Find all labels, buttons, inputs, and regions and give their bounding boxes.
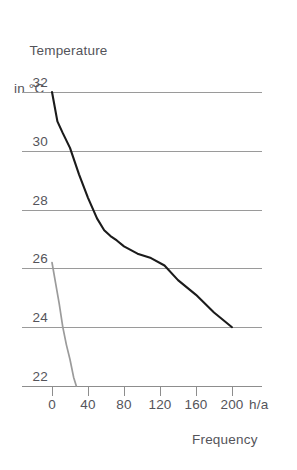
y-tick-label-28: 28: [22, 193, 48, 208]
x-axis-title: Frequency: [192, 432, 258, 447]
x-tick-label-80: 80: [104, 397, 144, 412]
data-series-group: [52, 92, 232, 386]
x-tick-label-120: 120: [140, 397, 180, 412]
y-tick-label-32: 32: [22, 75, 48, 90]
chart-container: Temperature in °C 222426283032 040801201…: [0, 0, 297, 470]
x-axis-ticks-group: [53, 387, 233, 396]
gridlines-group: [22, 93, 262, 387]
x-tick-label-40: 40: [68, 397, 108, 412]
series-line-secondary-curve: [52, 263, 76, 386]
y-tick-label-22: 22: [22, 369, 48, 384]
y-tick-label-26: 26: [22, 251, 48, 266]
x-tick-label-160: 160: [176, 397, 216, 412]
x-axis-unit-label: h/a: [249, 397, 268, 412]
x-tick-label-0: 0: [32, 397, 72, 412]
y-tick-label-24: 24: [22, 310, 48, 325]
x-tick-label-200: 200: [212, 397, 252, 412]
y-tick-label-30: 30: [22, 134, 48, 149]
